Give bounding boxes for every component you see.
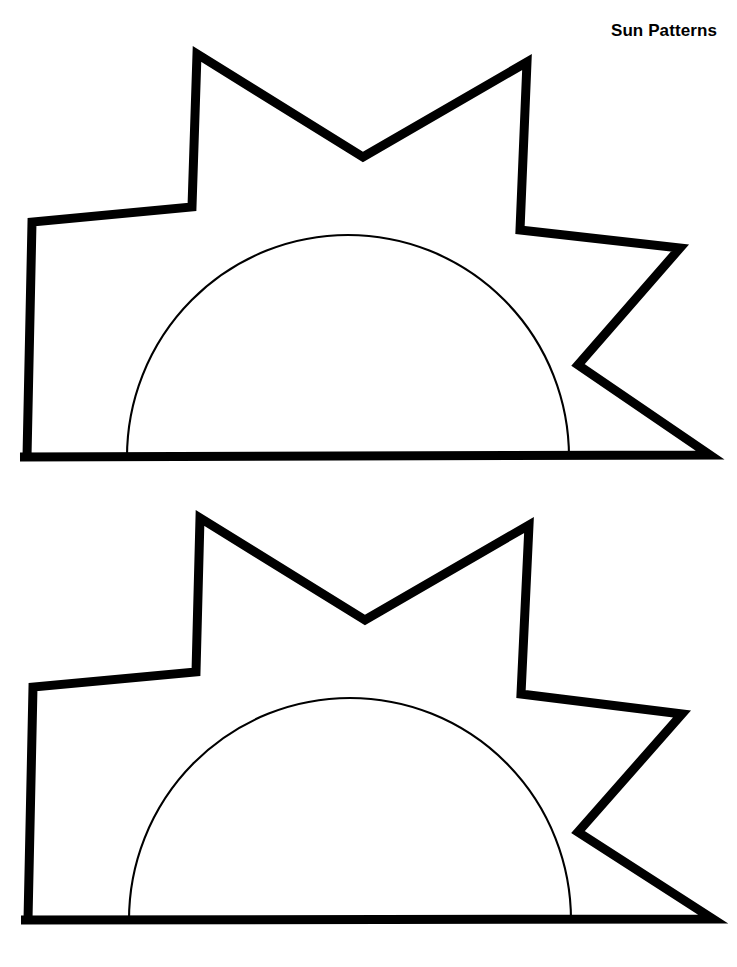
sun-patterns-artwork [0,0,737,967]
sun-pattern-bottom-group [21,518,713,920]
sun-pattern-top-group [20,54,710,457]
sun-rays-outline-top [20,54,710,457]
sun-disc-arc-bottom [129,698,571,920]
worksheet-page: Sun Patterns [0,0,737,967]
sun-rays-outline-bottom [21,518,713,920]
sun-disc-arc-top [127,235,569,457]
